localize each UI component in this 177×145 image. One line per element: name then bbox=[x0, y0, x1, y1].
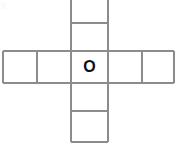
cell-right-outer bbox=[142, 51, 174, 83]
cell-bottom-inner bbox=[71, 83, 108, 111]
center-cell-label: O bbox=[71, 51, 108, 83]
cross-grid-figure: O bbox=[0, 0, 177, 145]
cell-left-inner bbox=[37, 51, 71, 83]
cell-right-inner bbox=[108, 51, 142, 83]
cell-top-outer bbox=[71, 0, 108, 23]
cell-left-outer bbox=[3, 51, 37, 83]
cell-top-inner bbox=[71, 23, 108, 51]
cell-bottom-outer bbox=[71, 111, 108, 142]
